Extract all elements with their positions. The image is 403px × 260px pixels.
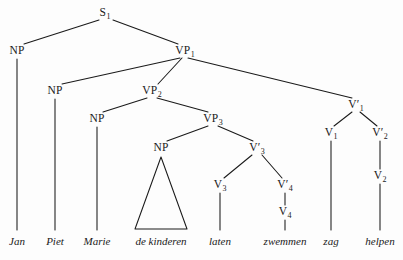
tree-edge-vp2-vp3 — [157, 98, 208, 112]
leaf-word-piet: Piet — [46, 236, 64, 247]
tree-edge-vb3-v3 — [224, 155, 252, 178]
tree-node-np4: NP — [153, 142, 168, 154]
tree-node-vb4: V′4 — [277, 179, 292, 191]
tree-node-v3: V3 — [214, 179, 227, 191]
leaf-word-zag: zag — [323, 236, 338, 247]
leaf-word-marie: Marie — [84, 236, 111, 247]
tree-edge-vp1-vb1 — [188, 58, 352, 98]
tree-node-vp3: VP3 — [203, 113, 222, 125]
tree-node-vp1: VP1 — [175, 45, 194, 57]
tree-node-s1: S1 — [100, 7, 111, 19]
tree-node-vb1: V′1 — [348, 99, 363, 111]
tree-edge-vb3-vb4 — [262, 155, 282, 178]
tree-edge-vb1-vb2 — [360, 112, 377, 126]
np-triangle — [135, 157, 187, 229]
tree-node-np3: NP — [89, 113, 104, 125]
tree-node-vb2: V′2 — [372, 127, 387, 139]
tree-node-vb3: V′3 — [249, 142, 264, 154]
leaf-word-helpen: helpen — [365, 236, 394, 247]
tree-node-v1: V1 — [325, 127, 338, 139]
tree-edge-vp3-vb3 — [218, 126, 253, 141]
leaf-word-kinderen: de kinderen — [135, 236, 186, 247]
tree-edge-s1-vp1 — [113, 20, 178, 44]
tree-node-np1: NP — [9, 45, 24, 57]
leaf-word-laten: laten — [209, 236, 231, 247]
tree-node-v2: V2 — [374, 170, 387, 182]
leaf-word-zwemmen: zwemmen — [264, 236, 307, 247]
tree-edge-vb1-v1 — [334, 112, 352, 126]
tree-node-vp2: VP2 — [142, 85, 161, 97]
tree-edges-layer — [0, 0, 403, 260]
edge-group — [17, 20, 380, 230]
tree-edge-s1-np1 — [24, 20, 99, 44]
tree-node-np2: NP — [47, 85, 62, 97]
tree-edge-vp3-np4 — [167, 126, 208, 141]
tree-edge-vp2-np3 — [103, 98, 147, 112]
leaf-word-jan: Jan — [9, 236, 25, 247]
tree-node-v4: V4 — [279, 206, 292, 218]
syntax-tree-figure: S1NPVP1NPVP2V′1NPVP3V1V′2NPV′3V3V′4V2V4 … — [0, 0, 403, 260]
